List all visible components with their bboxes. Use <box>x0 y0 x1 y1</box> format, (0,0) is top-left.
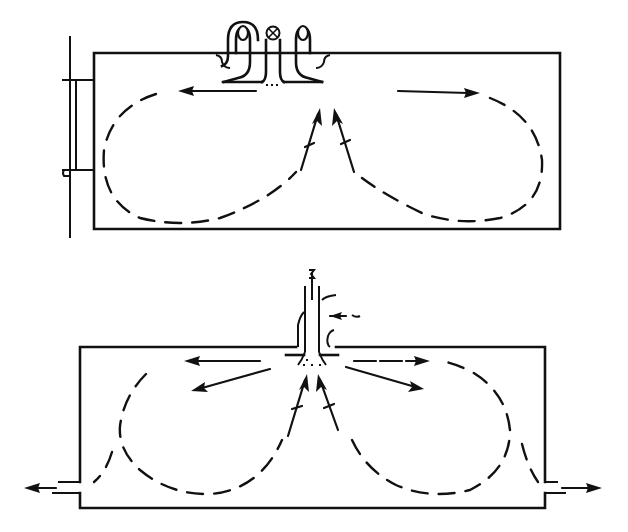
top-supply-jets <box>178 86 480 98</box>
arrow-left-icon <box>178 86 194 96</box>
exhaust-arrow-left-icon <box>24 483 40 493</box>
bottom-right-circulation-loop <box>352 362 510 494</box>
arrow-right-icon <box>464 88 480 98</box>
bottom-left-corner-flow <box>94 452 112 482</box>
bottom-return-arrows <box>288 374 338 436</box>
top-left-circulation-loop <box>104 94 296 223</box>
exhaust-arrow-right-icon <box>586 483 602 493</box>
right-exhaust-outlet <box>545 482 602 493</box>
bottom-ceiling-diffuser <box>286 270 360 366</box>
left-exhaust-outlet <box>24 482 80 493</box>
bottom-room-floor <box>80 493 545 508</box>
bottom-room-left-wall <box>80 347 296 482</box>
top-room-walls <box>94 53 560 229</box>
airflow-diagram <box>0 0 628 532</box>
window <box>62 80 94 176</box>
top-right-circulation-loop <box>362 98 542 221</box>
bottom-right-corner-flow <box>522 444 538 482</box>
top-panel <box>62 22 560 238</box>
bottom-left-circulation-loop <box>120 374 282 494</box>
center-marker-icon <box>267 27 280 40</box>
diagram-stage <box>0 0 628 532</box>
bottom-panel <box>24 270 602 508</box>
top-return-arrows <box>301 108 354 172</box>
